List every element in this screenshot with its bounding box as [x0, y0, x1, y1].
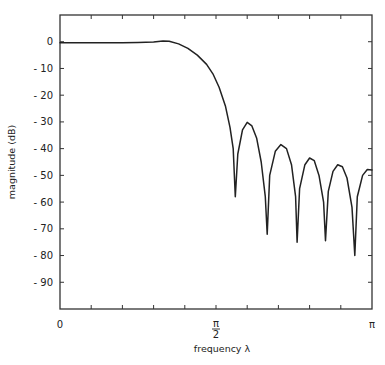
x-tick-labels: 0π2π — [57, 318, 375, 340]
magnitude-response-chart: 0- 10- 20- 30- 40- 50- 60- 70- 80- 90 0π… — [0, 0, 385, 365]
y-tick-label: - 30 — [33, 116, 53, 127]
y-tick-label: - 80 — [33, 250, 53, 261]
x-tick-label: 0 — [57, 319, 63, 330]
axis-ticks — [60, 15, 372, 309]
y-tick-label: - 70 — [33, 223, 53, 234]
magnitude-curve — [60, 41, 372, 256]
y-tick-label: - 40 — [33, 143, 53, 154]
y-tick-labels: 0- 10- 20- 30- 40- 50- 60- 70- 80- 90 — [33, 36, 53, 288]
y-tick-label: - 10 — [33, 63, 53, 74]
x-tick-label-fraction: π2 — [212, 318, 220, 340]
y-axis-label: magnitude (dB) — [6, 125, 17, 199]
y-tick-label: - 20 — [33, 90, 53, 101]
y-tick-label: - 60 — [33, 197, 53, 208]
x-axis-label: frequency λ — [194, 343, 251, 354]
svg-text:π: π — [213, 318, 219, 329]
y-tick-label: - 50 — [33, 170, 53, 181]
y-tick-label: 0 — [47, 36, 53, 47]
x-tick-label: π — [369, 319, 375, 330]
plot-frame — [60, 15, 372, 309]
y-tick-label: - 90 — [33, 277, 53, 288]
svg-text:2: 2 — [213, 329, 219, 340]
